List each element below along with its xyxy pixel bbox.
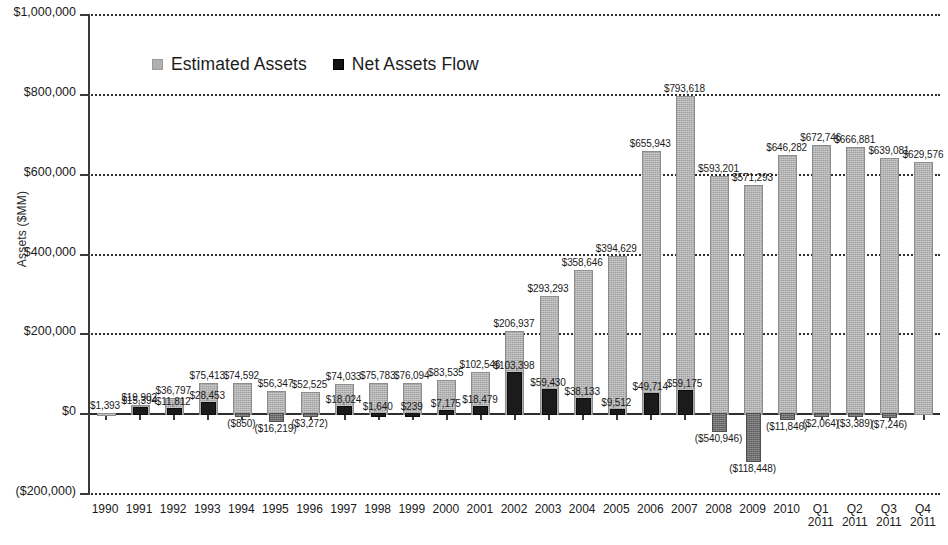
chart-category-column: $75,783$1,6401998	[361, 14, 395, 493]
chart-category-column: $206,937$103,3982002	[497, 14, 531, 493]
bar-net-assets-flow[interactable]	[303, 413, 318, 417]
bar-estimated-assets[interactable]	[744, 185, 763, 415]
chart-category-column: $793,618$59,1752007	[667, 14, 701, 493]
bar-estimated-assets[interactable]	[778, 155, 797, 415]
y-axis-tick	[80, 493, 90, 495]
chart-category-column: $1,3931990	[88, 14, 122, 493]
y-axis-label: $1,000,000	[0, 5, 76, 19]
bar-net-assets-flow[interactable]	[473, 406, 488, 415]
y-axis-label: $200,000	[0, 324, 76, 338]
chart-category-column: $74,592($850)1994	[224, 14, 258, 493]
bar-net-assets-flow[interactable]	[644, 393, 659, 415]
chart-category-column: $74,033$18,0241997	[327, 14, 361, 493]
y-axis-label: $0	[0, 404, 76, 418]
data-label-estimated-assets: $629,576	[891, 149, 948, 160]
bar-estimated-assets[interactable]	[914, 162, 933, 415]
chart-category-column: $52,525($3,272)1996	[292, 14, 326, 493]
chart-category-column: $639,081($7,246)Q32011	[872, 14, 906, 493]
y-axis-label: $600,000	[0, 165, 76, 179]
bar-net-assets-flow[interactable]	[712, 413, 727, 431]
bar-net-assets-flow[interactable]	[405, 413, 420, 417]
chart-category-column: $394,629$9,5122005	[599, 14, 633, 493]
bar-net-assets-flow[interactable]	[439, 410, 454, 415]
bar-net-assets-flow[interactable]	[133, 407, 148, 415]
bar-net-assets-flow[interactable]	[814, 413, 829, 417]
bar-net-assets-flow[interactable]	[678, 390, 693, 416]
bar-net-assets-flow[interactable]	[848, 413, 863, 417]
bar-estimated-assets[interactable]	[812, 145, 831, 416]
chart-category-column: $293,293$59,4302003	[531, 14, 565, 493]
chart-category-column: $102,546$18,4792001	[463, 14, 497, 493]
bar-estimated-assets[interactable]	[710, 176, 729, 415]
plot-area: $1,000,000$800,000$600,000$400,000$200,0…	[88, 14, 940, 493]
bar-estimated-assets[interactable]	[97, 413, 116, 416]
x-axis-label-line: 2011	[897, 516, 948, 529]
chart-category-column: $76,094$2391999	[395, 14, 429, 493]
bar-net-assets-flow[interactable]	[371, 413, 386, 417]
chart-category-column: $629,576Q42011	[906, 14, 940, 493]
gridline	[88, 493, 940, 495]
bar-estimated-assets[interactable]	[642, 151, 661, 415]
bar-net-assets-flow[interactable]	[167, 408, 182, 415]
bar-estimated-assets[interactable]	[676, 96, 695, 415]
bar-net-assets-flow[interactable]	[610, 409, 625, 415]
bar-estimated-assets[interactable]	[880, 158, 899, 415]
y-axis-label: ($200,000)	[0, 484, 76, 498]
bar-estimated-assets[interactable]	[267, 391, 286, 415]
chart-category-column: $593,201($540,946)2008	[701, 14, 735, 493]
bar-estimated-assets[interactable]	[846, 147, 865, 415]
y-axis-label: $400,000	[0, 245, 76, 259]
bar-net-assets-flow[interactable]	[201, 402, 216, 415]
chart-category-column: $36,797$11,8121992	[156, 14, 190, 493]
bar-net-assets-flow[interactable]	[882, 413, 897, 418]
bar-chart: Assets ($MM) Estimated Assets Net Assets…	[0, 0, 948, 545]
y-axis-title: Assets ($MM)	[15, 169, 29, 289]
x-axis-label: Q42011	[897, 503, 948, 529]
chart-category-column: $19,902$15,3941991	[122, 14, 156, 493]
y-axis-label: $800,000	[0, 85, 76, 99]
bar-net-assets-flow[interactable]	[235, 413, 250, 417]
chart-category-column: $83,535$7,1752000	[429, 14, 463, 493]
